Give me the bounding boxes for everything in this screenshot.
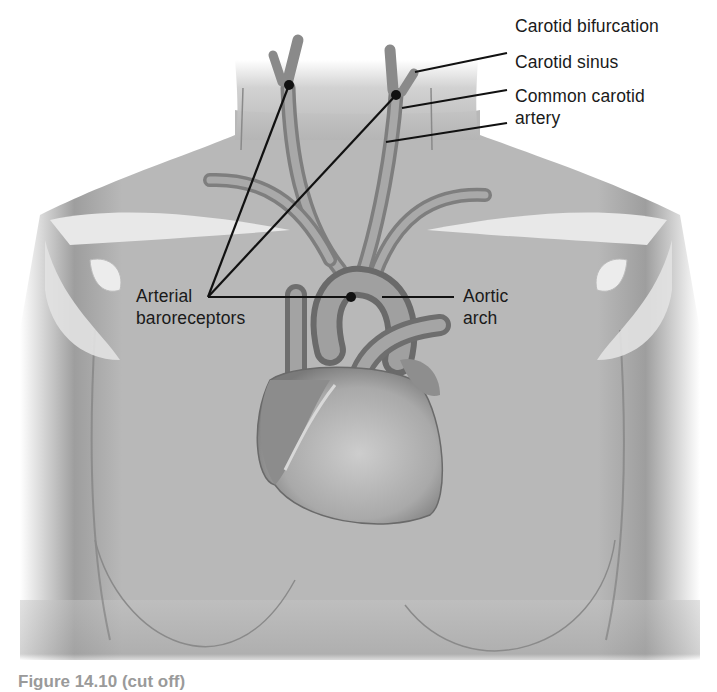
- label-arterial-baroreceptors-line2: baroreceptors: [136, 308, 245, 329]
- label-arterial-baroreceptors-line1: Arterial: [136, 286, 192, 307]
- label-carotid-sinus: Carotid sinus: [515, 52, 618, 73]
- label-common-carotid-artery-line1: Common carotid: [515, 86, 645, 107]
- baroreceptor-dot-aortic: [346, 292, 356, 302]
- figure-caption-cutoff: Figure 14.10 (cut off): [18, 672, 185, 692]
- label-aortic-arch-line2: arch: [463, 308, 497, 329]
- baroreceptor-dot-right-sinus: [391, 90, 401, 100]
- baroreceptor-dot-left-sinus: [284, 80, 294, 90]
- label-common-carotid-artery-line2: artery: [515, 108, 560, 129]
- label-aortic-arch-line1: Aortic: [463, 286, 508, 307]
- label-carotid-bifurcation: Carotid bifurcation: [515, 16, 659, 37]
